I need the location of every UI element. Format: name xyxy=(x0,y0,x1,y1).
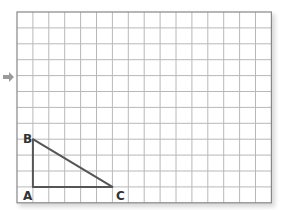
diagram-stage: B A C xyxy=(0,0,282,210)
grid-paper xyxy=(0,0,282,210)
arrow-right-icon xyxy=(2,70,16,84)
vertex-label-a: A xyxy=(23,189,32,203)
vertex-label-b: B xyxy=(23,132,32,146)
vertex-label-c: C xyxy=(116,189,125,203)
